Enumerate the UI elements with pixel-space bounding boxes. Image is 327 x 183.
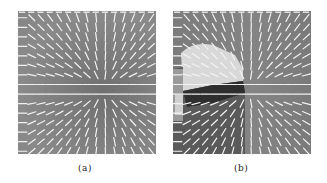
caption-b: (b)	[234, 163, 248, 173]
orientation-field-b	[173, 11, 311, 154]
vector-field-panel-b	[173, 11, 311, 154]
caption-a: (a)	[78, 163, 92, 173]
orientation-field-a	[18, 11, 156, 154]
vector-field-panel-a	[18, 11, 156, 154]
